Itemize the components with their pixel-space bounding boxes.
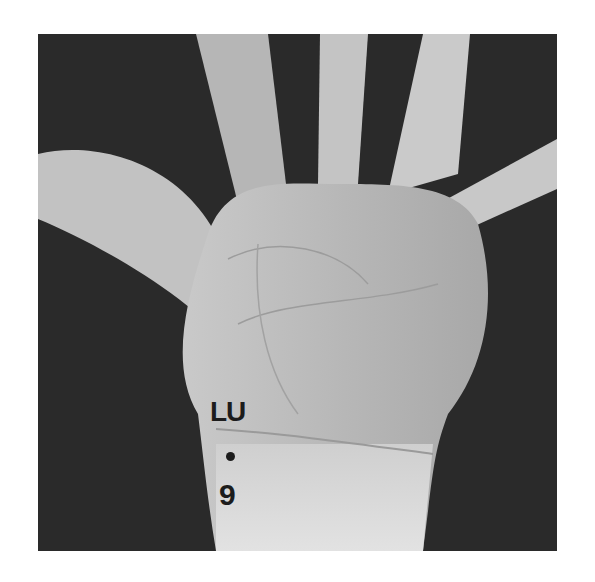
index-finger	[196, 34, 286, 204]
ring-finger	[388, 34, 470, 194]
hand-illustration	[38, 34, 557, 551]
acupoint-marker-dot	[226, 452, 235, 461]
meridian-label: LU	[210, 396, 245, 428]
wrist	[216, 444, 433, 551]
middle-finger	[318, 34, 368, 184]
point-number-label: 9	[219, 478, 236, 512]
hand-photograph: LU 9	[38, 34, 557, 551]
